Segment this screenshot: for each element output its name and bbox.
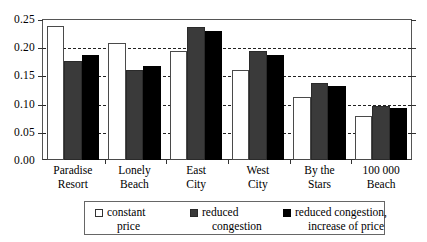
bar-chart: 0.000.050.100.150.200.25 ParadiseResortL… [0,0,427,242]
bar[interactable] [187,27,205,160]
legend-swatch-icon [190,209,198,217]
x-axis-label: 100 000Beach [350,164,412,191]
bar[interactable] [82,55,100,160]
bar[interactable] [205,31,223,160]
bar[interactable] [390,108,408,160]
x-axis-label-line: Lonely [104,164,166,178]
x-axis-label: LonelyBeach [104,164,166,191]
bar[interactable] [249,51,267,160]
y-tick-label: 0.20 [14,42,35,53]
bar-group [47,19,100,160]
bar[interactable] [293,97,311,160]
legend-label: reducedcongestion [202,206,262,233]
y-tick-label: 0.25 [14,14,35,25]
bar[interactable] [108,43,126,160]
x-axis-label-line: Resort [42,178,104,192]
y-tick-label: 0.10 [14,98,35,109]
bar[interactable] [170,51,188,160]
x-axis-label-line: Paradise [42,164,104,178]
legend-label-line: price [107,220,145,234]
legend-label-line: reduced congestion, [295,206,387,218]
legend-item[interactable]: reduced congestion,increase of price [283,206,387,233]
x-axis-label-line: East [165,164,227,178]
bars-layer [42,19,412,160]
bar[interactable] [311,83,329,160]
bar-group [170,19,223,160]
x-axis-label: WestCity [227,164,289,191]
x-axis: ParadiseResortLonelyBeachEastCityWestCit… [42,164,412,196]
x-axis-label: EastCity [165,164,227,191]
bar[interactable] [355,116,373,160]
x-axis-label-line: Beach [350,178,412,192]
x-axis-label-line: Beach [104,178,166,192]
bar[interactable] [372,106,390,160]
bar-group [232,19,285,160]
bar[interactable] [64,61,82,160]
legend-item[interactable]: constantprice [95,206,145,233]
legend-label-line: increase of price [295,220,387,234]
x-axis-label-line: By the [289,164,351,178]
bar-group [108,19,161,160]
bar-group [293,19,346,160]
x-axis-label: By theStars [289,164,351,191]
x-axis-label: ParadiseResort [42,164,104,191]
y-tick-label: 0.15 [14,70,35,81]
y-tick-label: 0.00 [14,155,35,166]
plot-area: 0.000.050.100.150.200.25 ParadiseResortL… [0,0,427,196]
x-axis-label-line: City [227,178,289,192]
legend-label: constantprice [107,206,145,233]
bar[interactable] [232,70,250,160]
bar[interactable] [126,70,144,160]
y-tick-label: 0.05 [14,126,35,137]
legend-swatch-icon [283,209,291,217]
x-axis-label-line: City [165,178,227,192]
bar[interactable] [328,86,346,160]
legend-item[interactable]: reducedcongestion [190,206,262,233]
bar-group [355,19,408,160]
x-axis-label-line: 100 000 [350,164,412,178]
legend-label: reduced congestion,increase of price [295,206,387,233]
chart-legend: constantpricereducedcongestionreduced co… [84,201,385,235]
legend-label-line: constant [107,206,145,218]
x-axis-label-line: Stars [289,178,351,192]
x-axis-label-line: West [227,164,289,178]
legend-label-line: reduced [202,206,238,218]
legend-swatch-icon [95,209,103,217]
bar[interactable] [267,55,285,160]
y-axis: 0.000.050.100.150.200.25 [0,0,38,196]
legend-label-line: congestion [202,220,262,234]
bar[interactable] [143,66,161,160]
bar[interactable] [47,26,65,160]
